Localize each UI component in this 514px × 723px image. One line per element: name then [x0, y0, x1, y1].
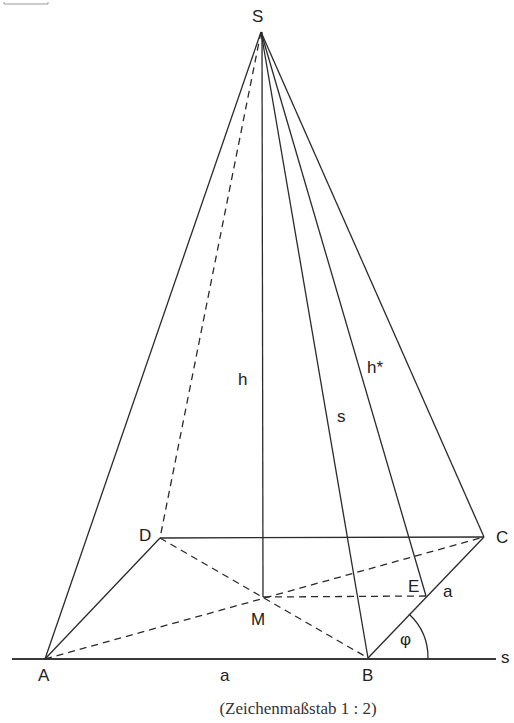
angle-phi-arc: [409, 614, 428, 659]
label-D: D: [139, 526, 151, 545]
label-s-edge: s: [337, 407, 346, 426]
cropped-text-fragment: [4, 2, 48, 4]
label-S: S: [252, 7, 263, 26]
label-C: C: [496, 528, 508, 547]
pyramid-diagram: S A B C D M E h h* s a a φ s (Zeichenmaß…: [0, 0, 514, 723]
label-a-side: a: [443, 582, 453, 601]
label-phi: φ: [400, 630, 411, 649]
label-h-star: h*: [367, 358, 383, 377]
segment-ME: [263, 596, 426, 597]
diagonal-DB: [160, 538, 368, 658]
label-E: E: [408, 577, 419, 596]
height-h: [262, 32, 263, 597]
label-A: A: [38, 666, 50, 685]
edge-SD-hidden: [160, 32, 261, 538]
edge-AD: [45, 538, 160, 659]
label-a-base: a: [220, 666, 230, 685]
label-M: M: [251, 610, 265, 629]
edge-DC: [160, 537, 484, 538]
edge-SC: [261, 32, 484, 537]
scale-caption: (Zeichenmaßstab 1 : 2): [219, 699, 376, 718]
edge-SA: [45, 32, 261, 659]
label-s-line: s: [501, 648, 510, 667]
label-B: B: [362, 666, 373, 685]
label-h: h: [238, 370, 247, 389]
